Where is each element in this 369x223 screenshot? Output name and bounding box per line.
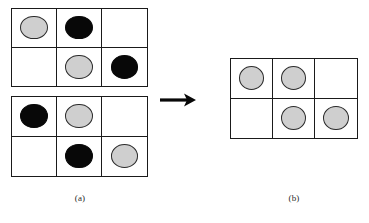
grid-cell	[231, 99, 273, 139]
grid-cell	[102, 48, 147, 87]
grid-cell	[315, 59, 357, 99]
panel-b-caption: (b)	[274, 193, 314, 203]
grid-cell	[315, 99, 357, 139]
grid-cell	[102, 97, 147, 137]
grid-cell	[12, 9, 57, 48]
token	[239, 66, 264, 90]
grid-b	[230, 58, 358, 139]
grid-cell	[12, 137, 57, 177]
token	[281, 66, 306, 90]
grid-cell	[273, 99, 315, 139]
right-arrow-icon	[159, 91, 197, 109]
grid-cell	[273, 59, 315, 99]
panel-a-caption: (a)	[60, 193, 100, 203]
figure-canvas: (a) (b)	[0, 0, 369, 223]
grid-cell	[57, 97, 102, 137]
grid-cell	[231, 59, 273, 99]
grid-cell	[57, 48, 102, 87]
token	[323, 106, 349, 130]
grid-cell	[12, 48, 57, 87]
token	[20, 104, 47, 128]
grid-cell	[57, 137, 102, 177]
grid-a-top	[11, 8, 148, 87]
grid-cell	[102, 9, 147, 48]
token	[65, 16, 92, 39]
grid-cell	[57, 9, 102, 48]
token	[111, 144, 139, 168]
token	[65, 55, 92, 79]
grid-cell	[12, 97, 57, 137]
token	[65, 144, 92, 168]
grid-a-bottom	[11, 96, 148, 177]
grid-cell	[102, 137, 147, 177]
token	[281, 106, 306, 130]
token	[20, 16, 47, 39]
token	[65, 104, 92, 128]
token	[111, 55, 139, 79]
